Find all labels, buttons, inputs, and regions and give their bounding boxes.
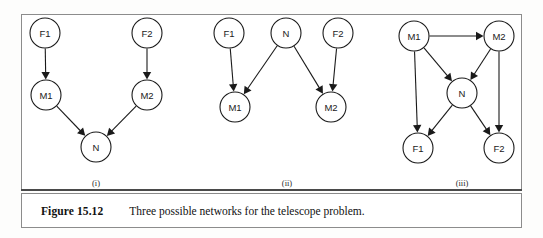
- node-label-f2: F2: [332, 28, 343, 39]
- panel-i-label: (i): [76, 178, 116, 188]
- edge-n-to-f1: [428, 105, 453, 136]
- node-m2: M2: [132, 80, 162, 110]
- figure-caption-text: Three possible networks for the telescop…: [129, 205, 364, 217]
- node-label-f1: F1: [223, 28, 234, 39]
- figure-caption: Figure 15.12 Three possible networks for…: [22, 194, 521, 227]
- node-f2: F2: [484, 133, 514, 163]
- edge-f1-to-m1: [229, 48, 237, 91]
- node-f1: F1: [403, 133, 433, 163]
- node-label-m2: M2: [492, 31, 505, 42]
- node-label-n: N: [93, 142, 100, 153]
- edge-n-to-f2: [471, 106, 491, 135]
- panel-ii-nodes: F1NF2M1M2: [214, 18, 353, 122]
- edge-m1-to-f1: [413, 51, 421, 132]
- node-f2: F2: [323, 18, 353, 48]
- panel-ii-edges: [229, 46, 337, 94]
- node-label-m1: M1: [228, 102, 241, 113]
- edge-m2-to-n: [107, 106, 136, 136]
- node-n: N: [447, 78, 477, 108]
- node-label-f1: F1: [39, 28, 50, 39]
- node-m2: M2: [484, 21, 514, 51]
- node-m1: M1: [31, 80, 61, 110]
- figure-caption-box: Figure 15.12 Three possible networks for…: [21, 194, 522, 228]
- node-label-f2: F2: [493, 143, 504, 154]
- panel-iii-label: (iii): [442, 178, 482, 188]
- node-label-m1: M1: [39, 90, 52, 101]
- node-label-n: N: [459, 88, 466, 99]
- node-n: N: [271, 18, 301, 48]
- node-label-m2: M2: [140, 90, 153, 101]
- node-f2: F2: [132, 18, 162, 48]
- figure-number: Figure 15.12: [41, 205, 103, 217]
- node-label-f1: F1: [412, 143, 423, 154]
- node-label-m1: M1: [407, 31, 420, 42]
- edge-f2-to-m2: [143, 49, 151, 80]
- node-m1: M1: [220, 92, 250, 122]
- edge-m1-to-n: [424, 48, 452, 81]
- edge-f1-to-m1: [41, 48, 49, 79]
- node-f1: F1: [30, 18, 60, 48]
- edge-m1-to-m2: [430, 32, 484, 40]
- edge-m2-to-n: [470, 49, 490, 80]
- node-label-f2: F2: [141, 28, 152, 39]
- edge-f2-to-m2: [329, 48, 337, 91]
- node-label-m2: M2: [324, 102, 337, 113]
- node-n: N: [81, 132, 111, 162]
- node-f1: F1: [214, 18, 244, 48]
- edge-n-to-m1: [244, 46, 277, 94]
- node-m2: M2: [316, 92, 346, 122]
- edge-m2-to-f2: [495, 52, 503, 133]
- node-m1: M1: [399, 21, 429, 51]
- panel-i-nodes: F1F2M1M2N: [30, 18, 162, 162]
- panel-ii-label: (ii): [267, 178, 307, 188]
- node-label-n: N: [283, 28, 290, 39]
- edge-m1-to-n: [57, 106, 86, 136]
- edge-n-to-m2: [294, 46, 323, 94]
